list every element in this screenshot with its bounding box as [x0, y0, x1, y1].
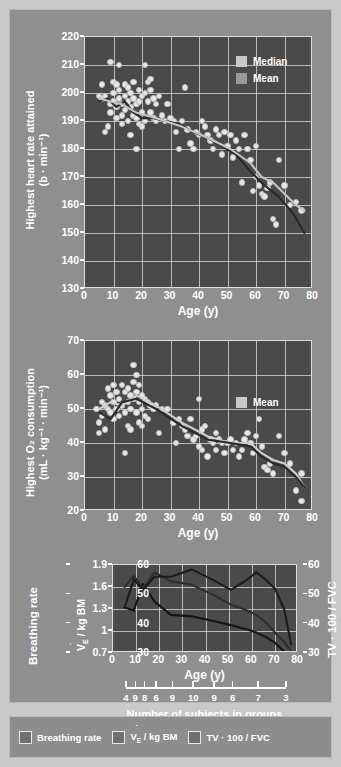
subjects-tick-mark — [213, 681, 215, 687]
left-y-tick-mark — [66, 622, 70, 624]
chart3-left-axis-title: Breathing rate — [27, 571, 41, 681]
inner-y-tick-label: 1 — [101, 624, 107, 636]
y-tick-label: 220 — [61, 30, 79, 42]
x-tick-label: 30 — [164, 289, 176, 301]
right-y-tick-label: 50 — [308, 587, 320, 599]
chart1-x-axis-title: Age (y) — [84, 304, 312, 318]
x-tick-label: 20 — [135, 511, 147, 523]
ve-kg-bm-swatch-icon — [112, 731, 125, 744]
left-y-tick-mark — [66, 593, 70, 595]
y-tick-label: 140 — [61, 254, 79, 266]
y-tick-label: 60 — [67, 368, 79, 380]
right-y-tick-label: 30 — [308, 646, 320, 658]
y-tick-mark — [80, 147, 84, 149]
figure-container: Highest heart rate attained (b · min⁻¹) … — [0, 0, 341, 767]
inner-y-tick-label: 1.3 — [92, 602, 107, 614]
breathing-rate-swatch-icon — [19, 731, 32, 744]
x-tick-label: 30 — [164, 511, 176, 523]
y-tick-mark — [80, 63, 84, 65]
x-tick-label: 0 — [81, 511, 87, 523]
y-tick-label: 30 — [67, 470, 79, 482]
legend-label-mean-2: Mean — [253, 397, 279, 408]
bottom-legend-label-breathing-rate: Breathing rate — [37, 732, 101, 743]
x-tick-label: 20 — [152, 653, 164, 665]
x-tick-label: 70 — [278, 511, 290, 523]
subjects-tick-mark — [155, 681, 157, 687]
series-tv-100-fvc — [113, 565, 297, 652]
x-tick-label: 60 — [249, 511, 261, 523]
y-tick-mark — [80, 475, 84, 477]
x-tick-label: 0 — [109, 653, 115, 665]
y-tick-label: 150 — [61, 226, 79, 238]
y-tick-mark — [80, 373, 84, 375]
chart-heart-rate: Highest heart rate attained (b · min⁻¹) … — [10, 10, 333, 320]
left-y-tick-label: 40 — [137, 617, 149, 629]
y-tick-label: 130 — [61, 282, 79, 294]
legend-entry-median: Median — [236, 56, 287, 67]
series-median — [85, 341, 312, 510]
y-tick-label: 50 — [67, 402, 79, 414]
y-tick-label: 180 — [61, 142, 79, 154]
chart2-y-axis-line2: (mL · kg⁻¹ · min⁻¹) — [37, 385, 49, 480]
legend-entry-mean-2: Mean — [236, 397, 279, 408]
left-y-tick-mark — [66, 651, 70, 653]
legend-label-median: Median — [253, 56, 287, 67]
tv-fvc-swatch-icon — [188, 731, 201, 744]
bottom-legend-label-ve-kg-bm: V̇E / kg BM — [130, 731, 177, 744]
bottom-legend-item-tv-fvc: TV · 100 / FVC — [188, 731, 269, 744]
chart1-y-axis-title: Highest heart rate attained (b · min⁻¹) — [24, 35, 50, 285]
subjects-tick-mark — [172, 681, 174, 687]
chart1-y-axis-line1: Highest heart rate attained — [24, 91, 36, 230]
charts-panel: Highest heart rate attained (b · min⁻¹) … — [9, 9, 332, 703]
subjects-tick-mark — [257, 681, 259, 687]
y-tick-label: 190 — [61, 114, 79, 126]
chart2-x-axis-title: Age (y) — [84, 526, 312, 540]
x-tick-label: 70 — [268, 653, 280, 665]
inner-y-tick-mark — [108, 607, 112, 609]
y-tick-label: 40 — [67, 436, 79, 448]
inner-y-tick-label: 0.7 — [92, 646, 107, 658]
chart3-x-axis-title: Age (y) — [112, 668, 297, 682]
right-y-tick-mark — [303, 651, 307, 653]
subjects-count-label: 4 — [123, 692, 128, 703]
x-tick-label: 0 — [81, 289, 87, 301]
x-tick-label: 50 — [221, 511, 233, 523]
chart1-legend: Median Mean — [236, 56, 287, 84]
x-tick-label: 10 — [129, 653, 141, 665]
inner-y-tick-label: 1.6 — [92, 580, 107, 592]
x-tick-label: 50 — [222, 653, 234, 665]
mean-swatch-icon — [236, 73, 247, 84]
subjects-count-label: 8 — [142, 692, 147, 703]
subjects-count-label: 3 — [283, 692, 288, 703]
x-tick-label: 10 — [107, 289, 119, 301]
right-y-tick-mark — [303, 593, 307, 595]
inner-y-tick-label: 1.9 — [92, 558, 107, 570]
x-tick-label: 30 — [176, 653, 188, 665]
chart2-y-axis-title: Highest O₂ consumption (mL · kg⁻¹ · min⁻… — [24, 335, 50, 530]
y-tick-mark — [80, 259, 84, 261]
chart-breathing-mechanics: Breathing rate V̇E / kg BM TV · 100 / FV… — [10, 555, 333, 704]
bottom-legend-bar: Breathing rate V̇E / kg BM TV · 100 / FV… — [9, 716, 332, 758]
x-tick-label: 20 — [135, 289, 147, 301]
subjects-count-label: 7 — [256, 692, 261, 703]
chart1-y-axis-line2: (b · min⁻¹) — [37, 133, 49, 186]
x-tick-label: 60 — [249, 289, 261, 301]
chart2-y-axis-line1: Highest O₂ consumption — [24, 368, 36, 497]
y-tick-mark — [80, 119, 84, 121]
x-tick-label: 50 — [221, 289, 233, 301]
left-y-tick-label: 50 — [137, 587, 149, 599]
x-tick-label: 40 — [199, 653, 211, 665]
inner-y-tick-mark — [108, 585, 112, 587]
x-tick-label: 60 — [245, 653, 257, 665]
x-tick-label: 10 — [107, 511, 119, 523]
subjects-count-label: 6 — [153, 692, 158, 703]
subjects-count-label: 10 — [188, 692, 199, 703]
y-tick-mark — [80, 441, 84, 443]
x-tick-label: 80 — [291, 653, 303, 665]
legend-entry-mean: Mean — [236, 73, 287, 84]
subjects-tick-mark — [285, 681, 287, 687]
y-tick-label: 200 — [61, 86, 79, 98]
left-y-tick-mark — [66, 563, 70, 565]
x-tick-label: 40 — [192, 289, 204, 301]
y-tick-mark — [80, 175, 84, 177]
